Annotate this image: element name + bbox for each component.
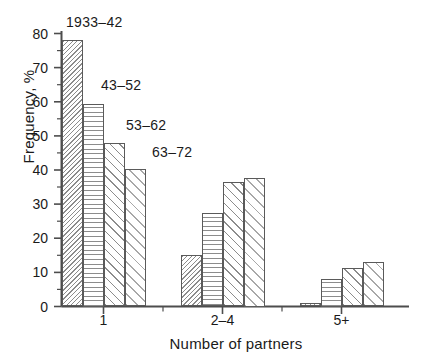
bar-53-62-cat-1 bbox=[104, 143, 125, 307]
bar-43-52-cat-5plus bbox=[321, 279, 342, 307]
x-axis-title: Number of partners bbox=[61, 335, 411, 352]
bar-63-72-cat-2-4 bbox=[244, 178, 265, 307]
ytick-label-10: 10 bbox=[18, 265, 48, 279]
xtick-label-5plus: 5+ bbox=[312, 312, 372, 328]
bar-43-52-cat-2-4 bbox=[202, 213, 223, 306]
bar-63-72-cat-1 bbox=[125, 169, 146, 306]
bar-chart-figure: 0 10 20 30 40 50 60 70 80 Frequency, % 1… bbox=[0, 0, 423, 363]
y-axis-title: Frequency, % bbox=[20, 27, 37, 207]
xtick-label-2-4: 2–4 bbox=[193, 312, 253, 328]
bar-1933-42-cat-1 bbox=[62, 40, 83, 306]
bar-63-72-cat-5plus bbox=[363, 262, 384, 306]
bar-1933-42-cat-5plus bbox=[300, 303, 321, 306]
bar-43-52-cat-1 bbox=[83, 104, 104, 307]
ytick-label-20: 20 bbox=[18, 231, 48, 245]
series-annotation-63-72: 63–72 bbox=[152, 144, 192, 160]
series-annotation-1933-42: 1933–42 bbox=[66, 14, 123, 30]
series-annotation-43-52: 43–52 bbox=[101, 77, 141, 93]
xtick-label-1: 1 bbox=[74, 312, 134, 328]
y-major-ticks bbox=[54, 34, 62, 307]
bar-1933-42-cat-2-4 bbox=[181, 255, 202, 306]
bar-53-62-cat-5plus bbox=[342, 268, 363, 306]
series-annotation-53-62: 53–62 bbox=[126, 117, 166, 133]
bar-53-62-cat-2-4 bbox=[223, 182, 244, 307]
ytick-label-0: 0 bbox=[18, 300, 48, 314]
